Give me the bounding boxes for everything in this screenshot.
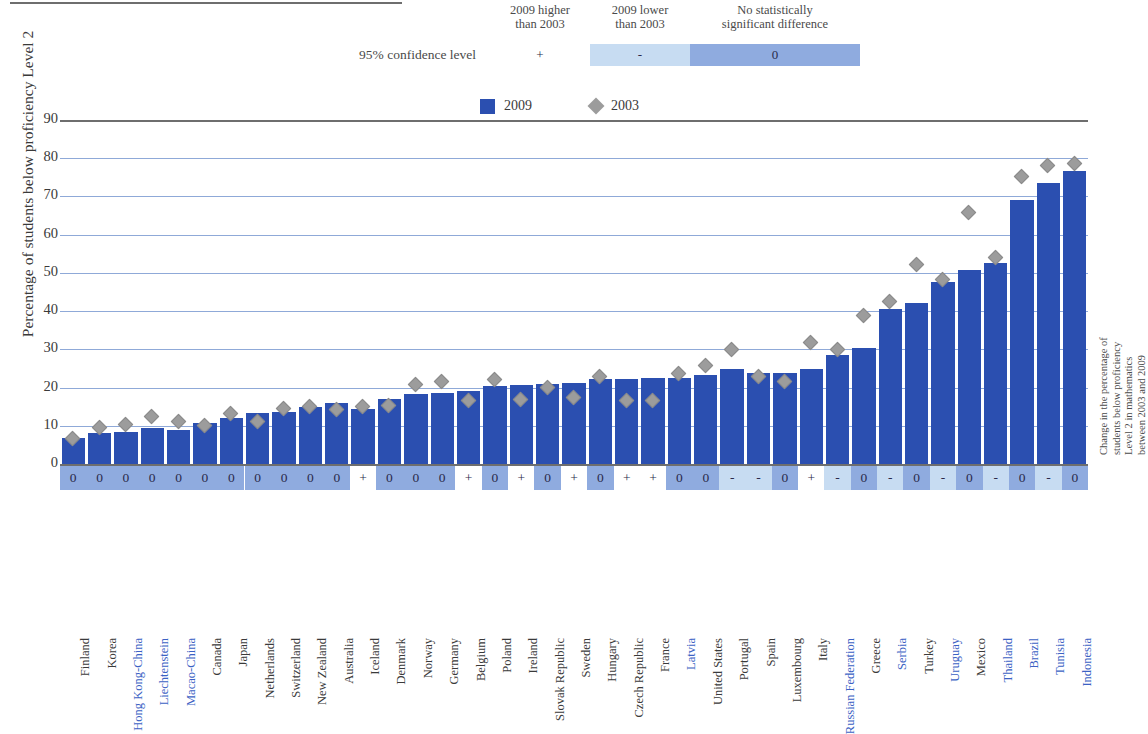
bar-2009[interactable] [826,355,849,464]
bar-group[interactable] [877,120,903,464]
category-label: Netherlands [263,638,278,698]
bar-group[interactable] [719,120,745,464]
category-label-wrap: Hungary [587,492,613,640]
bar-2009[interactable] [167,430,190,464]
bar-group[interactable] [192,120,218,464]
significance-cell: 0 [113,466,139,490]
marker-2003[interactable] [724,342,740,358]
bar-group[interactable] [824,120,850,464]
marker-2003[interactable] [908,257,924,273]
bar-group[interactable] [245,120,271,464]
category-label-wrap: Luxembourg [772,492,798,640]
significance-cell: + [350,466,376,490]
marker-2003[interactable] [856,308,872,324]
category-label: New Zealand [315,638,330,705]
bar-group[interactable] [693,120,719,464]
bar-group[interactable] [403,120,429,464]
bar-2009[interactable] [404,394,427,464]
bar-group[interactable] [983,120,1009,464]
y-tick-label-40: 40 [24,301,58,318]
bar-group[interactable] [508,120,534,464]
legend-header-lower-line1: 2009 lower [590,4,690,18]
marker-2003[interactable] [144,409,160,425]
bar-group[interactable] [798,120,824,464]
bar-2009[interactable] [931,282,954,464]
bar-group[interactable] [1035,120,1061,464]
bar-2009[interactable] [1037,183,1060,464]
marker-2003[interactable] [961,204,977,220]
bar-2009[interactable] [720,369,743,464]
category-label: Russian Federation [843,638,858,734]
bar-2009[interactable] [1063,171,1086,464]
bar-2009[interactable] [483,386,506,464]
bar-2009[interactable] [220,418,243,464]
legend-header-higher-line1: 2009 higher [490,4,590,18]
bar-2009[interactable] [114,432,137,464]
bar-2009[interactable] [272,412,295,464]
bar-group[interactable] [113,120,139,464]
marker-2003[interactable] [1040,158,1056,174]
bar-group[interactable] [956,120,982,464]
bar-group[interactable] [666,120,692,464]
bar-group[interactable] [376,120,402,464]
bar-2009[interactable] [1010,200,1033,464]
marker-2003[interactable] [882,293,898,309]
bar-group[interactable] [297,120,323,464]
significance-cell: 0 [903,466,929,490]
category-label: Slovak Republic [553,638,568,721]
bar-group[interactable] [60,120,86,464]
bar-2009[interactable] [141,428,164,464]
category-label-wrap: Ireland [508,492,534,640]
bar-group[interactable] [903,120,929,464]
bar-2009[interactable] [88,433,111,464]
bar-group[interactable] [745,120,771,464]
bar-2009[interactable] [431,393,454,464]
bar-group[interactable] [1062,120,1088,464]
bar-2009[interactable] [905,303,928,464]
bar-group[interactable] [324,120,350,464]
bar-2009[interactable] [351,409,374,464]
marker-2003[interactable] [170,414,186,430]
bar-2009[interactable] [641,378,664,464]
bar-group[interactable] [1009,120,1035,464]
bar-group[interactable] [587,120,613,464]
bar-group[interactable] [614,120,640,464]
bar-group[interactable] [350,120,376,464]
bar-2009[interactable] [800,369,823,464]
bar-2009[interactable] [958,270,981,464]
bar-group[interactable] [851,120,877,464]
bar-group[interactable] [455,120,481,464]
bar-group[interactable] [772,120,798,464]
category-label-wrap: Uruguay [930,492,956,640]
bar-group[interactable] [429,120,455,464]
bar-group[interactable] [139,120,165,464]
bar-group[interactable] [86,120,112,464]
category-label: Latvia [684,638,699,670]
marker-2003[interactable] [118,416,134,432]
bar-2009[interactable] [615,379,638,464]
bar-group[interactable] [640,120,666,464]
bar-group[interactable] [482,120,508,464]
category-label-wrap: Slovak Republic [534,492,560,640]
marker-2003[interactable] [803,334,819,350]
bar-group[interactable] [271,120,297,464]
bar-group[interactable] [930,120,956,464]
bar-2009[interactable] [694,375,717,464]
bar-2009[interactable] [536,384,559,464]
marker-2003[interactable] [698,358,714,374]
bar-2009[interactable] [589,379,612,464]
bar-2009[interactable] [747,373,770,464]
bar-2009[interactable] [668,378,691,464]
bar-group[interactable] [218,120,244,464]
bar-2009[interactable] [299,407,322,464]
marker-2003[interactable] [434,374,450,390]
marker-2003[interactable] [1014,169,1030,185]
marker-2003[interactable] [408,377,424,393]
bar-2009[interactable] [852,348,875,464]
bar-2009[interactable] [984,263,1007,464]
marker-2003[interactable] [1067,156,1083,172]
bar-group[interactable] [534,120,560,464]
bar-group[interactable] [561,120,587,464]
bar-group[interactable] [165,120,191,464]
bar-2009[interactable] [879,309,902,464]
